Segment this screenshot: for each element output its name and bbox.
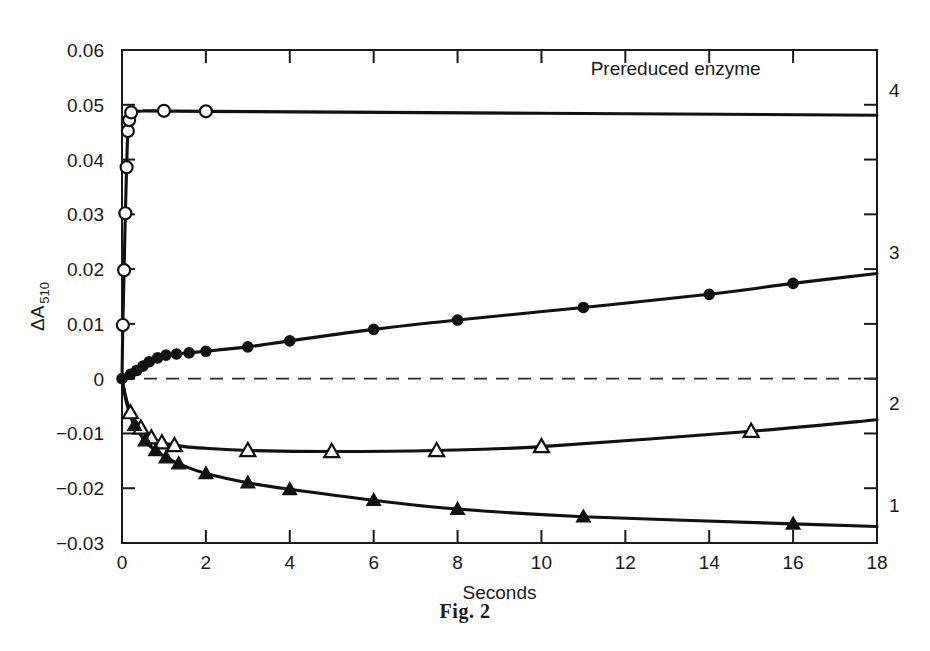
marker-open-circle-series-4 — [118, 264, 130, 276]
x-tick-label: 10 — [531, 552, 552, 573]
chart-canvas: −0.03−0.02−0.0100.010.020.030.040.050.06… — [0, 0, 930, 651]
x-tick-label: 8 — [452, 552, 463, 573]
y-tick-label: 0.01 — [67, 314, 104, 335]
marker-open-circle-series-4 — [158, 105, 170, 117]
figure-caption: Fig. 2 — [0, 600, 930, 623]
plot-frame — [122, 50, 877, 543]
data-markers-group — [117, 105, 800, 529]
curve-3 — [122, 273, 877, 378]
y-axis-title: ΔA510 — [27, 282, 52, 331]
marker-filled-circle-series-3 — [368, 324, 378, 334]
annotation-0: Prereduced enzyme — [591, 58, 761, 79]
y-tick-label: 0 — [93, 369, 104, 390]
x-tick-label: 12 — [615, 552, 636, 573]
curve-label-4: 4 — [889, 80, 900, 101]
y-tick-label: 0.04 — [67, 150, 104, 171]
marker-open-circle-series-4 — [119, 207, 131, 219]
marker-filled-circle-series-3 — [201, 346, 211, 356]
marker-filled-circle-series-3 — [243, 342, 253, 352]
y-axis-title-subscript: 510 — [37, 282, 52, 304]
marker-open-circle-series-4 — [125, 106, 137, 118]
curve-2 — [122, 379, 877, 452]
chart-text-labels: −0.03−0.02−0.0100.010.020.030.040.050.06… — [27, 40, 900, 603]
x-tick-label: 2 — [201, 552, 212, 573]
marker-filled-circle-series-3 — [171, 349, 181, 359]
x-tick-label: 16 — [783, 552, 804, 573]
x-tick-label: 6 — [368, 552, 379, 573]
y-tick-label: −0.02 — [56, 478, 104, 499]
marker-filled-circle-series-3 — [184, 348, 194, 358]
y-tick-label: 0.05 — [67, 95, 104, 116]
curve-label-2: 2 — [889, 393, 900, 414]
curve-4 — [122, 111, 877, 379]
figure-container: −0.03−0.02−0.0100.010.020.030.040.050.06… — [0, 0, 930, 651]
y-tick-label: 0.02 — [67, 259, 104, 280]
marker-filled-circle-series-3 — [452, 315, 462, 325]
marker-filled-circle-series-3 — [788, 278, 798, 288]
x-tick-label: 4 — [284, 552, 295, 573]
data-series-group — [122, 111, 877, 527]
x-tick-label: 0 — [117, 552, 128, 573]
y-tick-label: −0.03 — [56, 533, 104, 554]
marker-open-circle-series-4 — [117, 319, 129, 331]
x-tick-label: 14 — [699, 552, 721, 573]
y-axis-title-text: ΔA510 — [27, 282, 52, 331]
marker-open-triangle-series-2 — [123, 405, 138, 418]
marker-open-circle-series-4 — [200, 105, 212, 117]
marker-filled-circle-series-3 — [704, 289, 714, 299]
y-tick-label: 0.06 — [67, 40, 104, 61]
curve-label-3: 3 — [889, 242, 900, 263]
y-tick-label: 0.03 — [67, 204, 104, 225]
y-tick-label: −0.01 — [56, 423, 104, 444]
marker-filled-circle-series-3 — [578, 302, 588, 312]
marker-filled-circle-series-3 — [285, 336, 295, 346]
marker-open-circle-series-4 — [121, 161, 133, 173]
curve-1 — [122, 379, 877, 527]
x-tick-label: 18 — [866, 552, 887, 573]
chart-axes — [122, 50, 877, 543]
marker-filled-circle-series-3 — [161, 350, 171, 360]
curve-label-1: 1 — [889, 495, 900, 516]
